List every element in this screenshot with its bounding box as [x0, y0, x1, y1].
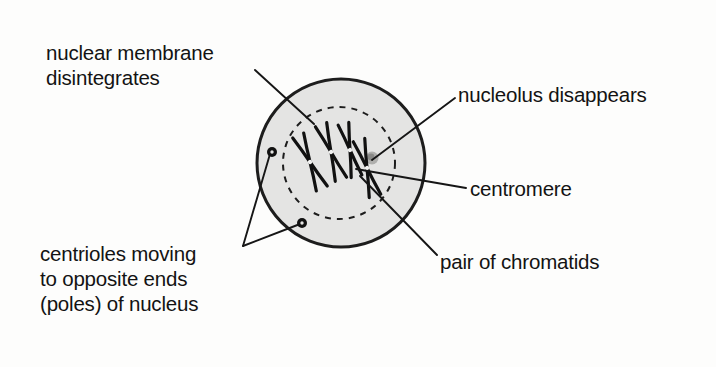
- leader-centriole-lower: [243, 224, 300, 246]
- centriole-upper-left-hole: [270, 150, 273, 153]
- centriole-lower-hole: [300, 221, 303, 224]
- label-centrioles-moving: centrioles moving to opposite ends (pole…: [40, 241, 198, 316]
- cell-membrane: [257, 79, 425, 247]
- label-centromere: centromere: [470, 176, 572, 201]
- diagram-canvas: nuclear membrane disintegrates nucleolus…: [0, 0, 716, 367]
- label-pair-of-chromatids: pair of chromatids: [440, 249, 599, 274]
- label-nucleolus-disappears: nucleolus disappears: [458, 82, 647, 107]
- label-nuclear-membrane: nuclear membrane disintegrates: [46, 40, 214, 90]
